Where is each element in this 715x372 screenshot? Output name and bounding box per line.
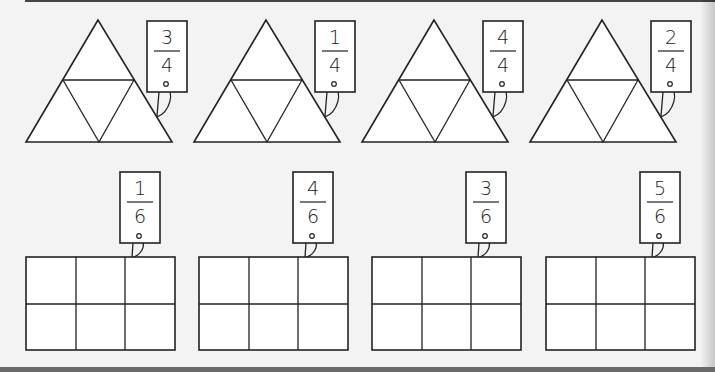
tag-denominator: 6 xyxy=(134,205,146,227)
tag-numerator: 4 xyxy=(497,26,509,48)
tag-denominator: 6 xyxy=(654,205,666,227)
triangle-problem-3: 4 4 xyxy=(362,20,523,142)
tag-denominator: 6 xyxy=(307,205,319,227)
page-edge-shadow xyxy=(700,0,715,367)
tag-numerator: 3 xyxy=(480,177,492,199)
tag-denominator: 4 xyxy=(161,54,173,76)
tag-numerator: 5 xyxy=(654,177,666,199)
tag-denominator: 4 xyxy=(329,54,341,76)
triangle-problem-4: 2 4 xyxy=(530,20,691,142)
tag-numerator: 1 xyxy=(329,26,341,48)
rectangle-problem-3: 3 6 xyxy=(372,172,521,350)
fraction-worksheet: 3 4 1 4 4 4 2 4 1 xyxy=(0,0,715,372)
triangle-problem-2: 1 4 xyxy=(194,20,355,142)
bottom-band xyxy=(0,367,715,372)
rectangle-problem-2: 4 6 xyxy=(199,172,348,350)
tag-denominator: 6 xyxy=(480,205,492,227)
tag-numerator: 3 xyxy=(161,26,173,48)
tag-numerator: 4 xyxy=(307,177,319,199)
tag-denominator: 4 xyxy=(497,54,509,76)
rectangle-problem-4: 5 6 xyxy=(546,172,695,350)
tag-denominator: 4 xyxy=(665,54,677,76)
rectangle-problem-1: 1 6 xyxy=(26,172,175,350)
triangle-problem-1: 3 4 xyxy=(26,20,187,142)
tag-numerator: 2 xyxy=(665,26,677,48)
tag-numerator: 1 xyxy=(134,177,146,199)
